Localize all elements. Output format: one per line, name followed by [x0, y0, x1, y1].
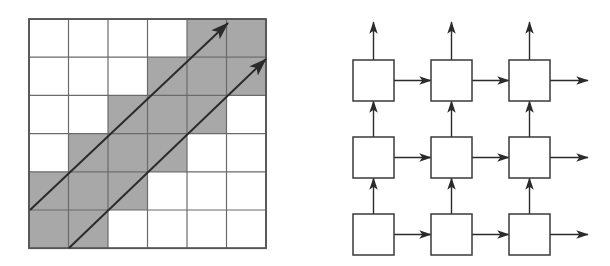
grid-cell-r5-c4 [187, 210, 227, 248]
grid-cell-r3-c0 [29, 134, 69, 172]
grid-cell-r3-c1 [69, 134, 109, 172]
grid-cell-r0-c5 [227, 19, 267, 57]
node-r1-c0 [353, 137, 394, 178]
grid-cell-r5-c2 [108, 210, 148, 248]
network-node-layer [353, 60, 550, 255]
grid-cell-r2-c5 [227, 95, 267, 133]
grid-cell-r4-c1 [69, 172, 109, 210]
grid-cell-r4-c4 [187, 172, 227, 210]
node-r1-c2 [509, 137, 550, 178]
network-edge-layer [374, 22, 589, 235]
grid-cell-r3-c4 [187, 134, 227, 172]
grid-cell-r5-c5 [227, 210, 267, 248]
node-r1-c1 [431, 137, 472, 178]
node-r0-c2 [509, 60, 550, 101]
grid-cell-r4-c5 [227, 172, 267, 210]
grid-cell-r0-c4 [187, 19, 227, 57]
grid-diagram-panel [0, 0, 305, 266]
grid-cell-r0-c3 [148, 19, 188, 57]
grid-cell-r5-c3 [148, 210, 188, 248]
figure-root [0, 0, 610, 266]
grid-cell-r1-c1 [69, 57, 109, 95]
grid-cell-r2-c0 [29, 95, 69, 133]
node-r0-c1 [431, 60, 472, 101]
network-diagram-panel [305, 0, 610, 266]
grid-cell-r3-c2 [108, 134, 148, 172]
grid-cell-r1-c0 [29, 57, 69, 95]
grid-cell-r2-c2 [108, 95, 148, 133]
grid-cell-r0-c0 [29, 19, 69, 57]
grid-cell-r1-c3 [148, 57, 188, 95]
grid-cell-r4-c3 [148, 172, 188, 210]
node-r2-c0 [353, 214, 394, 255]
grid-cell-r2-c3 [148, 95, 188, 133]
node-r2-c1 [431, 214, 472, 255]
grid-cell-r5-c0 [29, 210, 69, 248]
grid-cell-r1-c2 [108, 57, 148, 95]
grid-cell-r0-c1 [69, 19, 109, 57]
shaded-grid-svg [0, 0, 305, 266]
grid-cell-r2-c1 [69, 95, 109, 133]
grid-cell-r3-c5 [227, 134, 267, 172]
node-r2-c2 [509, 214, 550, 255]
grid-cell-r1-c5 [227, 57, 267, 95]
node-r0-c0 [353, 60, 394, 101]
grid-cell-r0-c2 [108, 19, 148, 57]
network-diagram-svg [305, 0, 610, 266]
grid-cell-r1-c4 [187, 57, 227, 95]
